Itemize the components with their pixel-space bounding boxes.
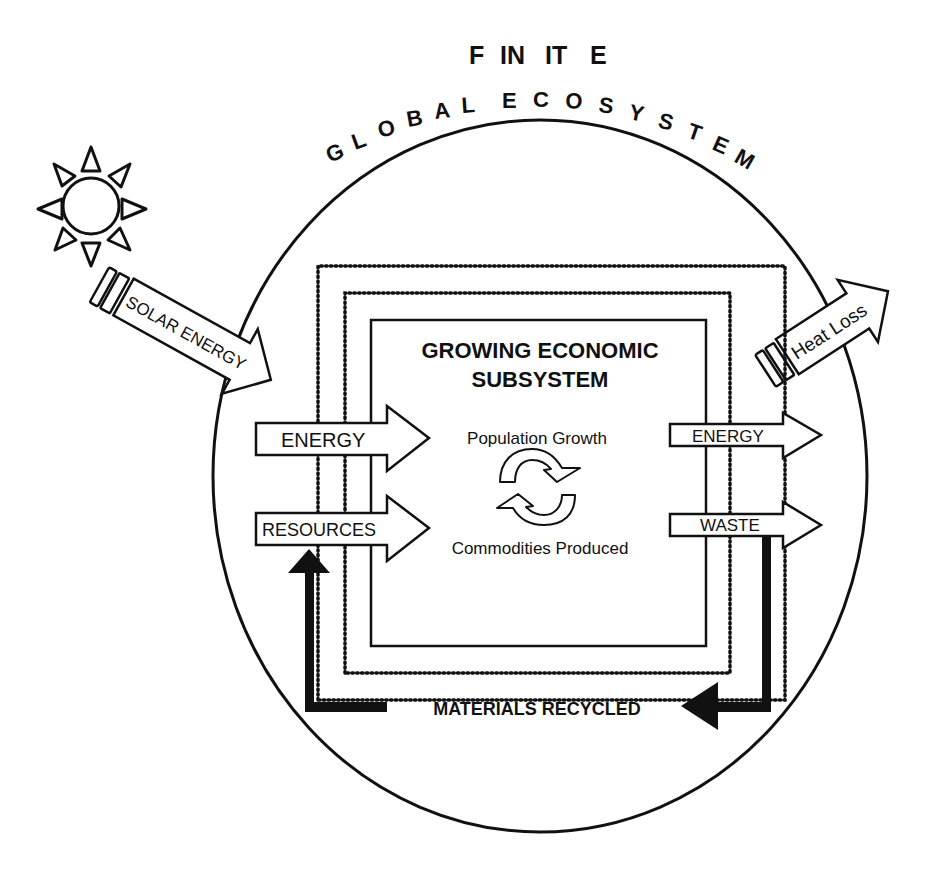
svg-text:O: O: [565, 88, 583, 114]
population-growth-label: Population Growth: [467, 429, 607, 448]
svg-text:S: S: [597, 92, 615, 119]
svg-text:IT: IT: [545, 41, 567, 69]
svg-text:S: S: [656, 108, 677, 136]
heat-loss-arrow: Heat Loss: [745, 260, 908, 402]
subsystem-boundary-dotted-outer: [318, 266, 785, 700]
svg-text:M: M: [731, 144, 759, 175]
svg-text:L: L: [348, 127, 369, 155]
ecosystem-diagram: F IN IT E G L O B A L E C O S Y S T E M: [0, 0, 939, 870]
svg-text:C: C: [533, 87, 549, 112]
waste-output-arrow: WASTE: [670, 502, 821, 548]
svg-text:E: E: [502, 88, 517, 113]
svg-text:WASTE: WASTE: [700, 516, 760, 535]
svg-text:RESOURCES: RESOURCES: [262, 520, 376, 540]
svg-text:T: T: [684, 118, 705, 146]
svg-text:A: A: [433, 97, 452, 124]
commodities-produced-label: Commodities Produced: [452, 539, 629, 558]
svg-text:ENERGY: ENERGY: [281, 429, 365, 451]
subsystem-title-line2: SUBSYSTEM: [472, 367, 609, 392]
materials-recycled-label: MATERIALS RECYCLED: [433, 699, 641, 719]
svg-text:IN: IN: [500, 41, 525, 69]
solar-energy-arrow: SOLAR ENERGY: [82, 252, 289, 412]
svg-text:F: F: [469, 41, 484, 69]
global-ecosystem-boundary: [213, 120, 867, 832]
svg-text:E: E: [590, 41, 607, 69]
resources-input-arrow: RESOURCES: [256, 496, 429, 561]
sun-icon: [38, 147, 146, 266]
subsystem-title-line1: GROWING ECONOMIC: [421, 338, 658, 363]
svg-text:G: G: [322, 138, 348, 168]
svg-text:ENERGY: ENERGY: [692, 427, 764, 446]
svg-text:E: E: [709, 131, 733, 160]
svg-text:B: B: [405, 105, 425, 132]
svg-text:L: L: [461, 92, 476, 118]
energy-output-arrow: ENERGY: [670, 413, 821, 458]
energy-input-arrow: ENERGY: [256, 406, 429, 471]
svg-text:Y: Y: [627, 99, 646, 126]
svg-text:O: O: [375, 114, 398, 143]
cycle-arrows-icon: [497, 449, 580, 525]
title-finite: F IN IT E: [469, 41, 607, 69]
